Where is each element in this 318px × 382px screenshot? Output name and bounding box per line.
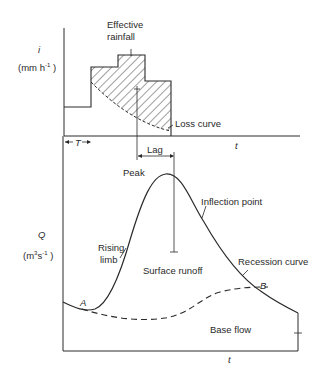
- peak-label: Peak: [123, 167, 145, 178]
- hydrograph-y-unit: (m3s-1 ): [23, 250, 53, 261]
- effective-rainfall-label-2: rainfall: [107, 31, 135, 42]
- surface-runoff-label: Surface runoff: [143, 265, 203, 276]
- effective-rainfall-hatch: [88, 52, 174, 134]
- rising-limb-label-1: Rising: [98, 242, 124, 253]
- hydrograph-x-symbol: t: [228, 354, 231, 365]
- base-flow-label: Base flow: [210, 324, 251, 335]
- point-b-label: B: [260, 280, 266, 291]
- lag-label: Lag: [147, 144, 163, 155]
- loss-curve-label: Loss curve: [175, 118, 221, 129]
- hydrograph-y-symbol: Q: [38, 229, 45, 240]
- lag-arrowhead-left: [138, 154, 142, 158]
- effective-rainfall-label-1: Effective: [107, 19, 143, 30]
- inflection-leader: [202, 206, 206, 218]
- inflection-point-label: Inflection point: [201, 196, 262, 207]
- arrowhead-right: [87, 140, 91, 144]
- hyetograph-x-symbol: t: [235, 140, 238, 151]
- rising-limb-label-2: limb: [100, 254, 117, 265]
- hydrograph-diagram: [0, 0, 318, 382]
- lag-arrowhead-right: [170, 154, 174, 158]
- recession-leader: [242, 270, 248, 276]
- hyetograph-y-unit: (mm h-1 ): [18, 62, 56, 73]
- time-label-T: T: [75, 137, 81, 148]
- arrowhead-left: [65, 140, 69, 144]
- point-a-label: A: [80, 297, 86, 308]
- recession-curve-label: Recession curve: [238, 256, 308, 267]
- hyetograph-y-symbol: i: [38, 44, 40, 55]
- hyetograph: [64, 28, 300, 160]
